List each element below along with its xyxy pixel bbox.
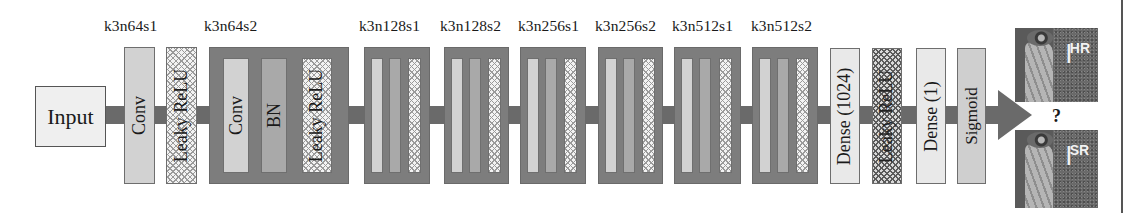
- conv-block-k3n512s1: [674, 47, 741, 184]
- layer-label: Dense (1): [921, 81, 942, 151]
- sr-image-label: ISR: [1065, 140, 1092, 172]
- conv-layer: Conv: [223, 58, 249, 173]
- sr-image: ISR: [1015, 130, 1098, 208]
- layer-label: Dense (1024): [835, 67, 856, 164]
- layer-label: Sigmoid: [962, 87, 982, 145]
- dense-1-layer: Dense (1): [916, 48, 946, 184]
- dense-1024-layer: Dense (1024): [830, 48, 860, 184]
- block-label: k3n64s2: [204, 17, 257, 35]
- conv-layer: [681, 58, 693, 173]
- conv-block-k3n256s2: [598, 47, 663, 184]
- bn-layer: [777, 58, 789, 173]
- conv-block-k3n512s2: [752, 47, 818, 184]
- leaky-relu-layer: Leaky ReLU: [166, 47, 197, 184]
- block-label: k3n512s2: [751, 17, 812, 35]
- conv-layer: [759, 58, 771, 173]
- leaky-relu-layer: [408, 58, 421, 173]
- layer-label: Leaky ReLU: [171, 69, 192, 162]
- divider: [1121, 0, 1123, 213]
- bn-layer: [699, 58, 711, 173]
- conv-block-k3n64s2: Conv BN Leaky ReLU: [209, 47, 349, 184]
- leaky-relu-layer: [796, 58, 809, 173]
- conv-layer: [451, 58, 463, 173]
- block-label: k3n128s1: [359, 17, 420, 35]
- bn-layer: [545, 58, 557, 173]
- conv-block-k3n128s1: [364, 47, 430, 184]
- bn-layer: [469, 58, 481, 173]
- conv-layer: [527, 58, 539, 173]
- block-label: k3n64s1: [104, 17, 157, 35]
- stripe-texture: [1025, 144, 1053, 208]
- conv-block-k3n128s2: [444, 47, 509, 184]
- layer-label: Leaky ReLU: [877, 69, 898, 162]
- block-label: k3n256s1: [518, 17, 579, 35]
- leaky-relu-layer: [719, 58, 732, 173]
- block-label: k3n256s2: [595, 17, 656, 35]
- layer-label: Conv: [226, 96, 247, 135]
- stripe-texture: [1025, 42, 1053, 102]
- layer-label: Leaky ReLU: [307, 69, 328, 162]
- conv-block-k3n256s1: [520, 47, 586, 184]
- sigmoid-layer: Sigmoid: [957, 48, 986, 184]
- bn-layer: [623, 58, 635, 173]
- comparison-question-mark: ?: [1052, 106, 1061, 127]
- block-label: k3n128s2: [440, 17, 501, 35]
- conv-layer: [605, 58, 617, 173]
- leaky-relu-layer: [488, 58, 501, 173]
- leaky-relu-layer: [642, 58, 655, 173]
- leaky-relu-layer: Leaky ReLU: [872, 48, 902, 184]
- bn-layer: BN: [261, 58, 287, 173]
- leaky-relu-layer: [564, 58, 577, 173]
- layer-label: Conv: [129, 96, 150, 135]
- hr-image: IHR: [1015, 28, 1098, 102]
- layer-label: BN: [264, 103, 285, 128]
- hr-image-label: IHR: [1065, 38, 1093, 70]
- eye-texture: [1027, 132, 1053, 148]
- block-label: k3n512s1: [672, 17, 733, 35]
- conv-layer: Conv: [124, 47, 155, 184]
- eye-texture: [1027, 30, 1053, 46]
- bn-layer: [389, 58, 401, 173]
- conv-layer: [371, 58, 383, 173]
- input-label: Input: [47, 104, 93, 130]
- input-node: Input: [35, 86, 106, 147]
- leaky-relu-layer: Leaky ReLU: [302, 58, 332, 173]
